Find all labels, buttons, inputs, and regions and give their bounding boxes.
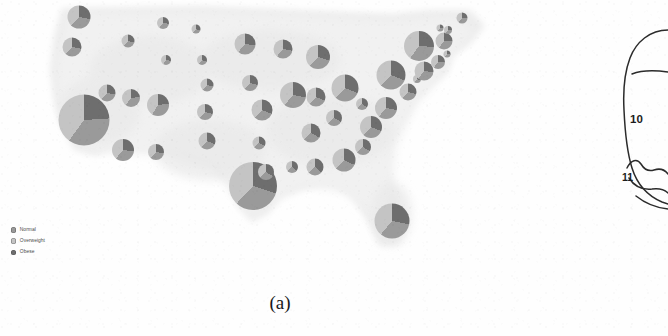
state-pie-me <box>457 13 468 24</box>
state-pie-ca <box>59 95 110 146</box>
state-pie-az <box>112 139 134 161</box>
state-pie-wv <box>356 98 368 110</box>
state-pie-ne <box>201 79 214 92</box>
state-pie-nd <box>192 25 201 34</box>
state-pie-il <box>280 82 306 108</box>
state-pie-la <box>258 164 274 180</box>
state-pie-wi <box>274 40 293 59</box>
figure-root: Normal Overweight Obese (a) <box>0 0 668 336</box>
legend-swatch-overweight <box>11 238 16 243</box>
state-pie-vt <box>437 25 444 32</box>
state-pie-ga <box>333 149 356 172</box>
state-pie-in <box>307 88 326 107</box>
legend-label-obese: Obese <box>20 249 35 255</box>
state-pie-ok <box>199 133 216 150</box>
state-pie-sc <box>355 139 371 155</box>
state-pie-fl <box>375 204 410 239</box>
state-pie-al <box>307 159 324 176</box>
state-pie-nv <box>99 85 116 102</box>
figure-caption: (a) <box>0 292 560 314</box>
state-pie-mn <box>235 34 256 55</box>
state-pie-tn <box>302 124 321 143</box>
legend-swatch-obese <box>11 250 16 255</box>
state-pie-wy <box>161 55 171 65</box>
state-pie-co <box>147 94 169 116</box>
state-pie-or <box>63 38 82 57</box>
legend-label-overweight: Overweight <box>20 238 45 244</box>
state-pie-ny <box>404 31 434 61</box>
us-pie-map-panel: Normal Overweight Obese <box>0 0 560 290</box>
legend-item-obese: Obese <box>11 248 45 256</box>
adjacent-cropped-diagram: 10 11 <box>596 0 668 230</box>
state-pie-wa <box>68 6 91 29</box>
legend-item-overweight: Overweight <box>11 237 45 245</box>
state-pie-nc <box>360 116 382 138</box>
state-pie-mo <box>252 100 273 121</box>
legend-swatch-normal <box>11 227 16 232</box>
state-pie-sd <box>197 55 207 65</box>
state-pie-ct <box>431 55 445 69</box>
state-pie-nh <box>444 26 452 34</box>
state-pie-ar <box>253 137 266 150</box>
state-pie-ma <box>436 33 453 50</box>
state-pie-ia <box>242 75 258 91</box>
region-label-11: 11 <box>622 171 633 183</box>
state-pie-mt <box>157 17 169 29</box>
state-pie-mi <box>306 45 330 69</box>
state-pie-ri <box>444 51 451 58</box>
legend-item-normal: Normal <box>11 226 45 234</box>
state-pie-md <box>400 84 417 101</box>
state-pie-va <box>375 97 397 119</box>
region-label-10: 10 <box>630 113 643 125</box>
state-pie-layer <box>0 0 560 290</box>
legend-label-normal: Normal <box>20 227 36 233</box>
legend: Normal Overweight Obese <box>11 226 45 256</box>
state-pie-ms <box>286 161 298 173</box>
state-pie-ks <box>197 104 213 120</box>
state-pie-nm <box>148 144 164 160</box>
state-pie-oh <box>332 75 359 102</box>
state-pie-id <box>122 35 135 48</box>
state-pie-ky <box>326 110 342 126</box>
state-pie-ut <box>122 89 140 107</box>
